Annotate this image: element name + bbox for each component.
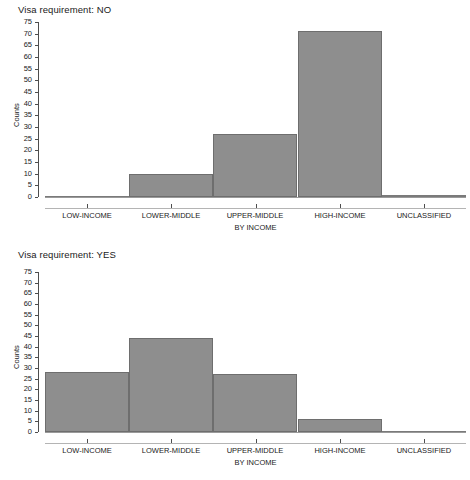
bar xyxy=(45,372,129,432)
y-tick-label: 20 xyxy=(10,385,32,393)
y-tick xyxy=(35,368,38,369)
y-tick-label: 70 xyxy=(10,279,32,287)
bar xyxy=(129,338,213,432)
visa-requirement-bar-charts: Visa requirement: NO05101520253035404550… xyxy=(0,0,470,480)
y-tick-label: 15 xyxy=(10,396,32,404)
x-tick-label: HIGH-INCOME xyxy=(298,447,382,455)
y-tick xyxy=(35,411,38,412)
y-tick-label: 50 xyxy=(10,321,32,329)
y-tick-label: 0 xyxy=(10,428,32,436)
bar xyxy=(213,374,297,432)
y-tick xyxy=(35,293,38,294)
y-tick xyxy=(35,379,38,380)
y-tick xyxy=(35,325,38,326)
bar xyxy=(298,419,382,432)
x-tick xyxy=(256,439,257,443)
x-axis-line xyxy=(45,432,466,433)
y-axis-label: Counts xyxy=(12,345,21,369)
y-tick-label: 10 xyxy=(10,407,32,415)
x-tick-label: UNCLASSIFIED xyxy=(382,447,466,455)
y-tick xyxy=(35,336,38,337)
y-tick xyxy=(35,272,38,273)
y-tick-label: 55 xyxy=(10,311,32,319)
x-tick xyxy=(424,439,425,443)
y-tick xyxy=(35,432,38,433)
y-tick-label: 65 xyxy=(10,289,32,297)
y-tick xyxy=(35,389,38,390)
y-tick-label: 60 xyxy=(10,300,32,308)
x-tick-label: UPPER-MIDDLE xyxy=(213,447,297,455)
y-tick xyxy=(35,315,38,316)
y-tick-label: 25 xyxy=(10,375,32,383)
chart-panel-2: Visa requirement: YES0510152025303540455… xyxy=(0,0,470,240)
x-tick xyxy=(87,439,88,443)
y-tick xyxy=(35,283,38,284)
y-tick xyxy=(35,357,38,358)
x-tick xyxy=(171,439,172,443)
x-axis-label: BY INCOME xyxy=(45,458,466,467)
y-tick xyxy=(35,347,38,348)
panel-title: Visa requirement: YES xyxy=(18,249,116,260)
y-tick-label: 5 xyxy=(10,417,32,425)
x-tick-label: LOWER-MIDDLE xyxy=(129,447,213,455)
y-tick xyxy=(35,400,38,401)
bars-group xyxy=(45,272,466,432)
y-tick-label: 75 xyxy=(10,268,32,276)
x-tick-label: LOW-INCOME xyxy=(45,447,129,455)
y-axis-line xyxy=(38,272,39,432)
y-tick xyxy=(35,421,38,422)
y-tick-label: 45 xyxy=(10,332,32,340)
x-category-axis-line xyxy=(45,443,466,444)
y-tick xyxy=(35,304,38,305)
x-tick xyxy=(340,439,341,443)
